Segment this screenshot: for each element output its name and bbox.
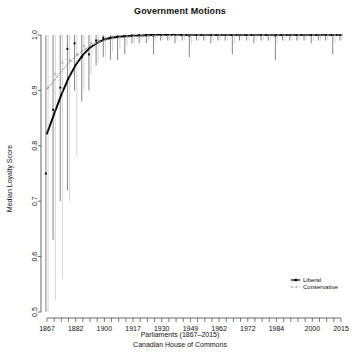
legend-liberal-marker: [295, 279, 297, 281]
data-point: [59, 87, 61, 89]
data-point: [74, 42, 76, 44]
data-point: [66, 48, 68, 50]
y-axis-tick-label: 0.8: [31, 141, 38, 151]
legend-label-conservative: Conservative: [303, 284, 339, 290]
y-axis-tick-label: 0.7: [31, 196, 38, 206]
data-point: [341, 34, 343, 36]
data-point: [95, 40, 97, 42]
chart-figure: Government Motions Median Loyalty Score …: [0, 0, 360, 357]
data-point: [88, 53, 90, 55]
data-point: [90, 42, 92, 44]
x-axis-label-line1: Parliaments (1867–2015): [0, 330, 360, 340]
data-point: [45, 173, 47, 175]
data-point: [52, 109, 54, 111]
data-point: [54, 73, 56, 75]
x-axis-label-line2: Canadian House of Commons: [0, 340, 360, 350]
y-axis-tick-label: 0.9: [31, 85, 38, 95]
data-point: [97, 40, 99, 42]
data-point: [102, 37, 104, 39]
y-axis-tick-label: 0.5: [31, 307, 38, 317]
data-point: [69, 59, 71, 61]
data-point: [61, 62, 63, 64]
data-point: [83, 45, 85, 47]
x-axis-label: Parliaments (1867–2015) Canadian House o…: [0, 330, 360, 349]
y-axis-tick-label: 1.0: [31, 30, 38, 40]
plot-area: 0.50.60.70.80.91.01867188219001917193019…: [0, 0, 360, 357]
y-axis-tick-label: 0.6: [31, 252, 38, 262]
legend-label-liberal: Liberal: [303, 277, 321, 283]
data-point: [104, 38, 106, 40]
